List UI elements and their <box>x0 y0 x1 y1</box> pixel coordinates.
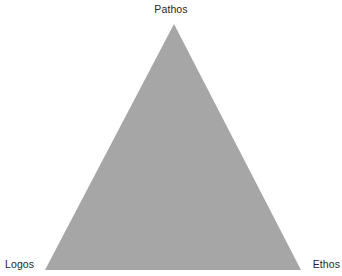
triangle-shape <box>45 24 301 270</box>
triangle-graphic <box>0 0 342 276</box>
vertex-label-pathos: Pathos <box>0 3 342 15</box>
vertex-label-ethos: Ethos <box>313 258 340 270</box>
vertex-label-logos: Logos <box>5 258 34 270</box>
rhetorical-triangle-diagram: Pathos Logos Ethos <box>0 0 342 276</box>
